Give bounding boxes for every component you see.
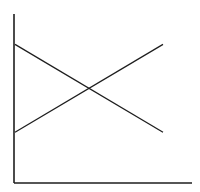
series-group [15, 44, 163, 132]
chart-canvas [0, 0, 200, 192]
line-chart [0, 0, 200, 192]
